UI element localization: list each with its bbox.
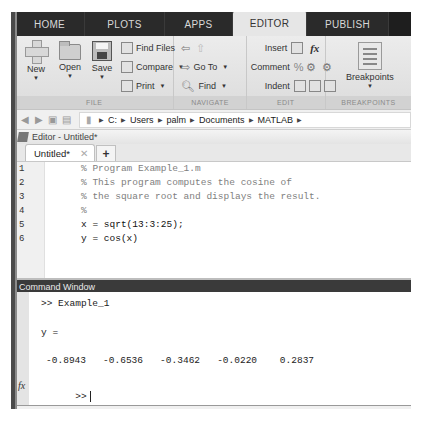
forward-arrow-icon[interactable]: ▶ bbox=[33, 114, 44, 125]
insert-label: Insert bbox=[265, 43, 288, 53]
line-number: 5 bbox=[15, 218, 44, 232]
save-button[interactable]: Save ▼ bbox=[85, 40, 119, 81]
editor-tab-bar: Untitled* ✕ + bbox=[15, 144, 411, 162]
line-number: 1 bbox=[15, 162, 44, 176]
insert-button[interactable]: Insert fx bbox=[265, 39, 320, 57]
increase-indent-icon[interactable] bbox=[309, 80, 321, 92]
file-group-label: FILE bbox=[15, 96, 173, 109]
line-number: 4 bbox=[15, 204, 44, 218]
code-line[interactable]: y = cos(x) bbox=[81, 232, 411, 246]
arrow-left-icon[interactable]: ⇦ bbox=[181, 42, 190, 55]
code-line[interactable]: % This program computes the cosine of bbox=[81, 176, 411, 190]
print-button[interactable]: Print ▼ bbox=[121, 77, 165, 95]
breakpoints-group-label: BREAKPOINTS bbox=[326, 96, 411, 109]
command-history-line: >> Example_1 bbox=[41, 298, 109, 309]
breadcrumb-separator-icon: ▶ bbox=[158, 116, 163, 123]
output-values: -0.8943 -0.6536 -0.3462 -0.0220 0.2837 bbox=[29, 355, 314, 366]
code-lines[interactable]: % Program Example_1.m % This program com… bbox=[45, 162, 411, 278]
command-window[interactable]: >> Example_1 y = -0.8943 -0.6536 -0.3462… bbox=[15, 292, 411, 406]
floppy-disk-icon bbox=[92, 41, 112, 61]
add-tab-button[interactable]: + bbox=[96, 145, 116, 161]
print-label: Print bbox=[136, 81, 155, 91]
breakpoints-label: Breakpoints bbox=[340, 72, 400, 82]
tab-publish[interactable]: PUBLISH bbox=[307, 12, 389, 36]
editor-pencil-icon bbox=[17, 132, 29, 142]
magnifier-icon: 🔍︎ bbox=[181, 80, 195, 93]
breadcrumb-item[interactable]: Documents bbox=[199, 115, 245, 125]
drive-icon: ▮ bbox=[83, 114, 94, 125]
line-number: 6 bbox=[15, 232, 44, 246]
breadcrumb[interactable]: ▮ ▶ C: ▶ Users ▶ palm ▶ Documents ▶ MATL… bbox=[79, 112, 411, 128]
breakpoints-button[interactable]: Breakpoints ▼ bbox=[340, 42, 400, 90]
folder-icon bbox=[59, 44, 81, 60]
go-to-button[interactable]: ⇨ Go To ▼ bbox=[178, 58, 228, 76]
back-arrow-icon[interactable]: ◀ bbox=[19, 114, 30, 125]
open-label: Open bbox=[53, 62, 87, 72]
window-bottom-border bbox=[15, 405, 411, 406]
new-button[interactable]: New ▼ bbox=[19, 40, 53, 82]
save-label: Save bbox=[85, 63, 119, 73]
code-editor[interactable]: 1 2 3 4 5 6 % Program Example_1.m % This… bbox=[15, 162, 411, 278]
tab-plots[interactable]: PLOTS bbox=[85, 12, 165, 36]
command-window-title: Command Window bbox=[15, 278, 411, 292]
close-icon[interactable]: ✕ bbox=[80, 148, 88, 159]
tab-untitled[interactable]: Untitled* ✕ bbox=[25, 144, 95, 161]
function-browser-icon[interactable]: fx bbox=[18, 380, 25, 391]
line-number: 2 bbox=[15, 176, 44, 190]
insert-function-icon[interactable]: fx bbox=[310, 42, 319, 54]
new-plus-icon bbox=[25, 40, 47, 62]
chevron-down-icon: ▼ bbox=[221, 83, 227, 89]
tab-editor[interactable]: EDITOR bbox=[233, 12, 307, 36]
up-folder-icon[interactable]: ▣ bbox=[47, 114, 58, 125]
file-group: New ▼ Open ▼ Save ▼ Find Files Compare ▼ bbox=[15, 36, 174, 109]
compare-icon bbox=[121, 61, 133, 73]
back-forward-buttons[interactable]: ⇦ ⇧ bbox=[178, 39, 208, 57]
tab-apps[interactable]: APPS bbox=[165, 12, 233, 36]
insert-icon bbox=[291, 42, 303, 54]
prompt-symbol: >> bbox=[75, 391, 86, 402]
code-line[interactable]: % the square root and displays the resul… bbox=[81, 190, 411, 204]
current-folder-bar: ◀ ▶ ▣ ▤ ▮ ▶ C: ▶ Users ▶ palm ▶ Document… bbox=[15, 110, 411, 130]
line-number: 3 bbox=[15, 190, 44, 204]
printer-icon bbox=[121, 80, 133, 92]
uncomment-icon[interactable]: ⚙ bbox=[306, 61, 316, 74]
new-label: New bbox=[19, 64, 53, 74]
chevron-down-icon: ▼ bbox=[340, 82, 400, 90]
breadcrumb-separator-icon: ▶ bbox=[249, 116, 254, 123]
code-line[interactable]: x = sqrt(13:3:25); bbox=[81, 218, 411, 232]
chevron-down-icon: ▼ bbox=[53, 72, 87, 80]
navigate-group-label: NAVIGATE bbox=[174, 96, 245, 109]
breadcrumb-separator-icon: ▶ bbox=[190, 116, 195, 123]
browse-folder-icon[interactable]: ▤ bbox=[61, 114, 72, 125]
breadcrumb-separator-icon: ▶ bbox=[99, 116, 104, 123]
chevron-down-icon: ▼ bbox=[19, 74, 53, 82]
find-files-label: Find Files bbox=[136, 43, 175, 53]
breadcrumb-item[interactable]: C: bbox=[108, 115, 117, 125]
code-line[interactable]: % bbox=[81, 204, 411, 218]
arrow-up-icon[interactable]: ⇧ bbox=[196, 42, 205, 55]
comment-button[interactable]: Comment % ⚙ ⚙ bbox=[251, 58, 336, 76]
line-number-gutter: 1 2 3 4 5 6 bbox=[15, 162, 45, 278]
ribbon-tab-strip: HOME PLOTS APPS EDITOR PUBLISH bbox=[15, 12, 411, 36]
go-to-label: Go To bbox=[193, 62, 217, 72]
matlab-window: HOME PLOTS APPS EDITOR PUBLISH New ▼ Ope… bbox=[11, 12, 411, 409]
breadcrumb-item[interactable]: Users bbox=[130, 115, 154, 125]
comment-label: Comment bbox=[251, 62, 290, 72]
breadcrumb-item[interactable]: MATLAB bbox=[258, 115, 293, 125]
open-button[interactable]: Open ▼ bbox=[53, 40, 87, 80]
comment-percent-icon[interactable]: % bbox=[294, 61, 304, 73]
tab-label: Untitled* bbox=[34, 148, 70, 159]
find-button[interactable]: 🔍︎ Find ▼ bbox=[178, 77, 226, 95]
ribbon-toolbar: New ▼ Open ▼ Save ▼ Find Files Compare ▼ bbox=[15, 36, 411, 110]
code-line[interactable]: % Program Example_1.m bbox=[81, 162, 411, 176]
edit-group-label: EDIT bbox=[247, 96, 325, 109]
compare-label: Compare bbox=[136, 62, 173, 72]
find-files-button[interactable]: Find Files bbox=[121, 39, 175, 57]
editor-title: Editor - Untitled* bbox=[32, 132, 98, 142]
breakpoints-group: Breakpoints ▼ BREAKPOINTS bbox=[326, 36, 411, 109]
breakpoints-icon bbox=[358, 42, 382, 70]
breadcrumb-item[interactable]: palm bbox=[167, 115, 187, 125]
smart-indent-icon[interactable] bbox=[294, 80, 306, 92]
tab-home[interactable]: HOME bbox=[15, 12, 85, 36]
editor-titlebar: Editor - Untitled* bbox=[15, 130, 411, 144]
